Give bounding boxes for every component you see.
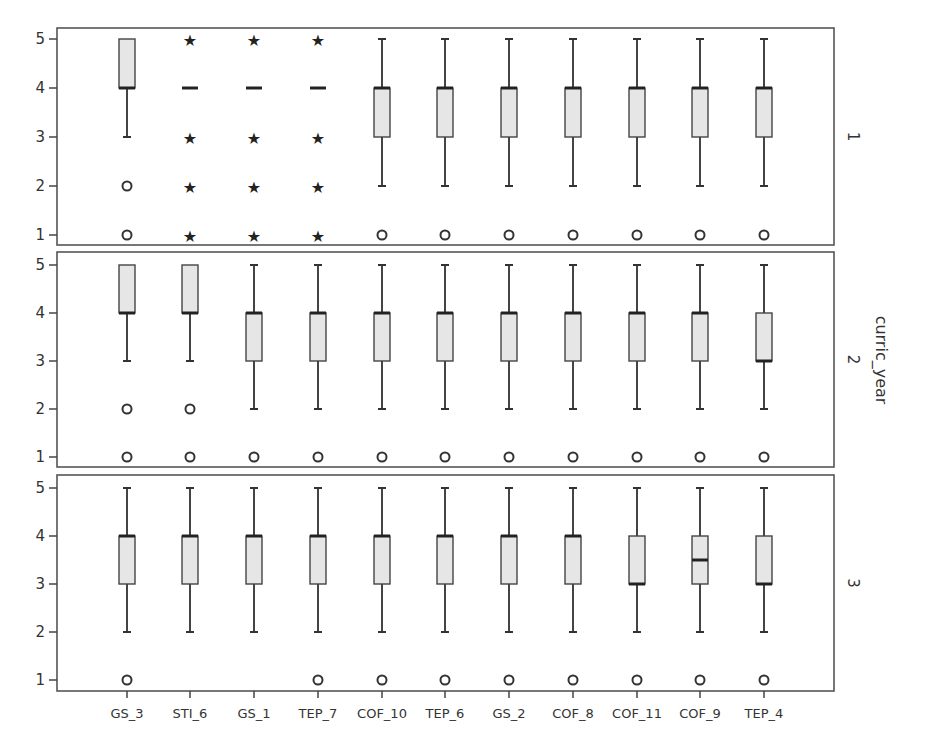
facet-panel-1: 123451★★★★★★★★★★★★	[35, 28, 862, 246]
iqr-box	[501, 536, 517, 584]
facet-axis-title: curric_year	[871, 316, 891, 405]
iqr-box	[119, 265, 135, 313]
facet-label: 2	[844, 355, 862, 365]
iqr-box	[310, 536, 326, 584]
extreme-star-icon: ★	[183, 129, 197, 148]
iqr-box	[756, 88, 772, 137]
iqr-box	[565, 313, 581, 361]
extreme-star-icon: ★	[183, 31, 197, 50]
extreme-star-icon: ★	[247, 129, 261, 148]
facet-panel-3: 123453	[35, 475, 862, 691]
facet-label: 3	[844, 578, 862, 588]
extreme-star-icon: ★	[247, 31, 261, 50]
y-tick-label: 4	[35, 527, 45, 545]
iqr-box	[182, 265, 198, 313]
extreme-star-icon: ★	[311, 31, 325, 50]
facet-panels: 123451★★★★★★★★★★★★123452123453	[35, 28, 862, 691]
x-tick-label: TEP_4	[744, 706, 784, 721]
iqr-box	[182, 536, 198, 584]
iqr-box	[692, 313, 708, 361]
iqr-box	[756, 313, 772, 361]
x-tick-label: GS_3	[110, 706, 143, 721]
x-tick-label: STI_6	[173, 706, 208, 721]
extreme-star-icon: ★	[247, 178, 261, 197]
y-tick-label: 1	[35, 671, 45, 689]
iqr-box	[565, 536, 581, 584]
iqr-box	[629, 536, 645, 584]
y-tick-label: 1	[35, 448, 45, 466]
iqr-box	[501, 313, 517, 361]
y-tick-label: 5	[35, 479, 45, 497]
iqr-box	[692, 88, 708, 137]
facet-label: 1	[844, 132, 862, 142]
x-tick-label: COF_9	[679, 706, 721, 721]
y-tick-label: 5	[35, 256, 45, 274]
y-tick-label: 2	[35, 177, 45, 195]
iqr-box	[119, 536, 135, 584]
x-tick-label: GS_1	[237, 706, 270, 721]
y-tick-label: 2	[35, 623, 45, 641]
iqr-box	[374, 536, 390, 584]
iqr-box	[501, 88, 517, 137]
x-tick-label: TEP_6	[425, 706, 465, 721]
extreme-star-icon: ★	[247, 227, 261, 246]
x-axis: GS_3STI_6GS_1TEP_7COF_10TEP_6GS_2COF_8CO…	[110, 691, 783, 721]
extreme-star-icon: ★	[311, 227, 325, 246]
facet-panel-2: 123452	[35, 252, 862, 467]
y-tick-label: 4	[35, 79, 45, 97]
iqr-box	[437, 88, 453, 137]
y-tick-label: 1	[35, 226, 45, 244]
x-tick-label: COF_8	[552, 706, 594, 721]
x-tick-label: COF_10	[357, 706, 407, 721]
y-tick-label: 3	[35, 128, 45, 146]
iqr-box	[565, 88, 581, 137]
y-tick-label: 3	[35, 575, 45, 593]
iqr-box	[629, 88, 645, 137]
x-tick-label: COF_11	[612, 706, 662, 721]
iqr-box	[374, 88, 390, 137]
iqr-box	[756, 536, 772, 584]
extreme-star-icon: ★	[311, 129, 325, 148]
extreme-star-icon: ★	[183, 178, 197, 197]
iqr-box	[246, 536, 262, 584]
iqr-box	[119, 39, 135, 88]
iqr-box	[629, 313, 645, 361]
extreme-star-icon: ★	[183, 227, 197, 246]
x-tick-label: GS_2	[492, 706, 525, 721]
iqr-box	[246, 313, 262, 361]
x-tick-label: TEP_7	[298, 706, 338, 721]
iqr-box	[437, 536, 453, 584]
y-tick-label: 2	[35, 400, 45, 418]
iqr-box	[310, 313, 326, 361]
iqr-box	[437, 313, 453, 361]
iqr-box	[374, 313, 390, 361]
y-tick-label: 4	[35, 304, 45, 322]
faceted-boxplot-chart: 123451★★★★★★★★★★★★123452123453 GS_3STI_6…	[0, 0, 930, 750]
y-tick-label: 5	[35, 30, 45, 48]
extreme-star-icon: ★	[311, 178, 325, 197]
y-tick-label: 3	[35, 352, 45, 370]
